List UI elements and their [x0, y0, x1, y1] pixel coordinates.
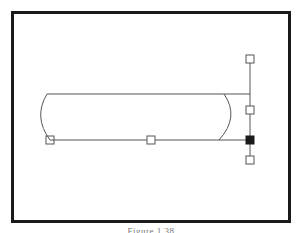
- bottom-control-handle[interactable]: [246, 156, 254, 164]
- drawing-canvas[interactable]: [0, 0, 302, 233]
- midpoint-handle[interactable]: [147, 136, 155, 144]
- figure-caption: Figure 1.38: [0, 226, 302, 233]
- anchor-handle-selected[interactable]: [246, 136, 254, 144]
- right-curve: [219, 94, 231, 140]
- mid-control-handle[interactable]: [246, 106, 254, 114]
- top-control-handle[interactable]: [246, 55, 254, 63]
- left-curve: [41, 94, 50, 140]
